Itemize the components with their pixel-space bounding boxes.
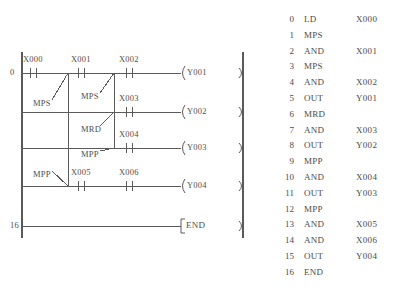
- instruction-step-number: 3: [278, 61, 294, 71]
- ladder-diagram: [0, 0, 270, 295]
- instruction-step-number: 0: [278, 14, 294, 24]
- rung-y004-coil-symbol: [183, 179, 186, 193]
- rung-y002-coil-symbol: [183, 105, 186, 119]
- instruction-row: 12MPP: [278, 204, 405, 220]
- instruction-row: 0LDX000: [278, 14, 405, 30]
- instruction-step-number: 9: [278, 156, 294, 166]
- instruction-row: 4ANDX002: [278, 77, 405, 93]
- instruction-step-number: 2: [278, 46, 294, 56]
- stack-annotation-mrd-leader: [100, 112, 114, 126]
- instruction-row: 16END: [278, 267, 405, 283]
- instruction-opcode: AND: [304, 235, 324, 245]
- instruction-opcode: OUT: [304, 188, 323, 198]
- instruction-opcode: MPS: [304, 61, 323, 71]
- instruction-opcode: MRD: [304, 109, 325, 119]
- instruction-opcode: OUT: [304, 251, 323, 261]
- instruction-row: 6MRD: [278, 109, 405, 125]
- instruction-step-number: 13: [278, 219, 294, 229]
- instruction-operand: Y004: [356, 251, 377, 261]
- instruction-step-number: 8: [278, 140, 294, 150]
- instruction-row: 13ANDX005: [278, 219, 405, 235]
- ladder-instruction-figure: 016X000X001X002Y001X003Y002X004Y003X005X…: [0, 0, 405, 295]
- instruction-row: 1MPS: [278, 30, 405, 46]
- instruction-opcode: LD: [304, 14, 317, 24]
- instruction-operand: Y002: [356, 140, 377, 150]
- instruction-operand: Y001: [356, 93, 377, 103]
- instruction-opcode: AND: [304, 77, 324, 87]
- instruction-row: 7ANDX003: [278, 125, 405, 141]
- rung-y001-coil-symbol: [183, 66, 186, 80]
- instruction-row: 11OUTY003: [278, 188, 405, 204]
- instruction-opcode: MPP: [304, 204, 323, 214]
- instruction-step-number: 16: [278, 267, 294, 277]
- instruction-step-number: 1: [278, 30, 294, 40]
- instruction-row: 8OUTY002: [278, 140, 405, 156]
- rung-y003-right-terminator: [239, 143, 242, 153]
- rung-y003-coil-symbol: [183, 141, 186, 155]
- instruction-operand: X005: [356, 219, 377, 229]
- instruction-row: 2ANDX001: [278, 46, 405, 62]
- instruction-opcode: MPP: [304, 156, 323, 166]
- stack-annotation-mpp-2-leader: [52, 171, 68, 186]
- instruction-row: 5OUTY001: [278, 93, 405, 109]
- rung-y004-right-terminator: [239, 181, 242, 191]
- instruction-row: 15OUTY004: [278, 251, 405, 267]
- rung-end-bracket: [181, 219, 185, 233]
- instruction-opcode: END: [304, 267, 323, 277]
- instruction-step-number: 11: [278, 188, 294, 198]
- instruction-opcode: OUT: [304, 140, 323, 150]
- instruction-row: 3MPS: [278, 61, 405, 77]
- instruction-opcode: AND: [304, 125, 324, 135]
- instruction-step-number: 6: [278, 109, 294, 119]
- instruction-opcode: AND: [304, 46, 324, 56]
- instruction-operand: Y003: [356, 188, 377, 198]
- instruction-step-number: 4: [278, 77, 294, 87]
- instruction-step-number: 15: [278, 251, 294, 261]
- instruction-row: 14ANDX006: [278, 235, 405, 251]
- instruction-step-number: 10: [278, 172, 294, 182]
- instruction-list: 0LDX0001MPS2ANDX0013MPS4ANDX0025OUTY0016…: [278, 0, 405, 295]
- instruction-step-number: 5: [278, 93, 294, 103]
- stack-annotation-mps-1-leader: [52, 73, 68, 100]
- instruction-operand: X004: [356, 172, 377, 182]
- instruction-operand: X006: [356, 235, 377, 245]
- instruction-step-number: 7: [278, 125, 294, 135]
- instruction-operand: X001: [356, 46, 377, 56]
- rung-y002-right-terminator: [239, 107, 242, 117]
- instruction-step-number: 12: [278, 204, 294, 214]
- stack-annotation-mps-2-leader: [100, 73, 114, 93]
- instruction-opcode: AND: [304, 219, 324, 229]
- instruction-operand: X000: [356, 14, 377, 24]
- instruction-opcode: MPS: [304, 30, 323, 40]
- instruction-step-number: 14: [278, 235, 294, 245]
- instruction-row: 10ANDX004: [278, 172, 405, 188]
- instruction-operand: X003: [356, 125, 377, 135]
- instruction-opcode: AND: [304, 172, 324, 182]
- instruction-opcode: OUT: [304, 93, 323, 103]
- instruction-row: 9MPP: [278, 156, 405, 172]
- rung-y001-right-terminator: [239, 68, 242, 78]
- rung-end-right-terminator: [239, 221, 242, 231]
- instruction-operand: X002: [356, 77, 377, 87]
